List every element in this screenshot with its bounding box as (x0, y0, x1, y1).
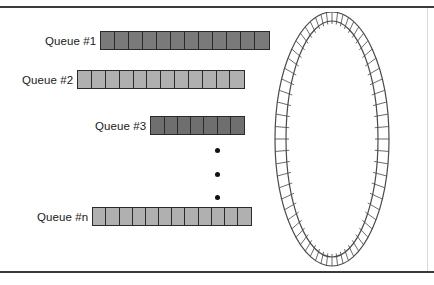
queue-cell (238, 208, 251, 225)
queue-cell (230, 71, 244, 88)
queue-bar (77, 70, 245, 89)
queue-bar (150, 116, 245, 135)
queue-bar (100, 31, 270, 50)
queue-cell (129, 32, 143, 49)
queue-cell (241, 32, 255, 49)
queue-cell (231, 117, 244, 134)
ellipsis-dot (215, 172, 220, 177)
queue-cell (106, 71, 120, 88)
queue-row: Queue #n (37, 207, 252, 226)
queue-cell (106, 208, 119, 225)
queue-cell (92, 71, 106, 88)
queue-cell (133, 208, 146, 225)
queue-label: Queue #1 (45, 35, 100, 47)
bottom-rule (0, 271, 434, 273)
ring-band-fill (275, 12, 389, 266)
queue-row: Queue #2 (22, 70, 245, 89)
queue-row: Queue #3 (95, 116, 245, 135)
queue-cell (157, 32, 171, 49)
queue-cell (227, 32, 241, 49)
vertical-ellipsis-icon (215, 148, 220, 200)
ellipsis-dot (215, 148, 220, 153)
queue-cell (172, 208, 185, 225)
right-edge-rule (427, 8, 428, 271)
queue-cell (143, 32, 157, 49)
ring-hatch-group (272, 12, 392, 267)
queue-cell (165, 117, 178, 134)
queue-cell (225, 208, 238, 225)
queue-cell (199, 32, 213, 49)
queue-cell (217, 71, 231, 88)
queue-cell (115, 32, 129, 49)
queue-cell (191, 117, 204, 134)
queue-cell (147, 71, 161, 88)
queue-cell (199, 208, 212, 225)
queue-cell (178, 117, 191, 134)
queue-cell (212, 208, 225, 225)
queue-cell (120, 71, 134, 88)
ellipsis-dot (215, 195, 220, 200)
queue-cell (204, 117, 217, 134)
ring-network-icon (272, 12, 392, 267)
queue-bar (92, 207, 252, 226)
queue-cell (218, 117, 231, 134)
queue-cell (93, 208, 106, 225)
queues-ring-diagram: Queue #1Queue #2Queue #3Queue #n (0, 0, 434, 285)
queue-cell (185, 208, 198, 225)
queue-cell (134, 71, 148, 88)
queue-cell (151, 117, 164, 134)
queue-cell (78, 71, 92, 88)
queue-cell (161, 71, 175, 88)
queue-label: Queue #2 (22, 74, 77, 86)
queue-label: Queue #3 (95, 120, 150, 132)
queue-cell (171, 32, 185, 49)
queue-cell (185, 32, 199, 49)
queue-cell (120, 208, 133, 225)
queue-cell (101, 32, 115, 49)
queue-cell (175, 71, 189, 88)
queue-cell (203, 71, 217, 88)
top-rule (0, 6, 434, 8)
ring-svg (272, 12, 392, 267)
queue-cell (159, 208, 172, 225)
queue-label: Queue #n (37, 211, 92, 223)
queue-cell (213, 32, 227, 49)
queue-row: Queue #1 (45, 31, 270, 50)
queue-cell (255, 32, 269, 49)
queue-cell (146, 208, 159, 225)
queue-cell (189, 71, 203, 88)
